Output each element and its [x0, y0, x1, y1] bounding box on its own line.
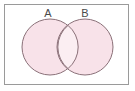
venn-diagram-figure: A B: [0, 0, 135, 91]
venn-canvas: [0, 0, 135, 91]
set-b-label: B: [78, 8, 92, 19]
set-a-label: A: [41, 8, 55, 19]
